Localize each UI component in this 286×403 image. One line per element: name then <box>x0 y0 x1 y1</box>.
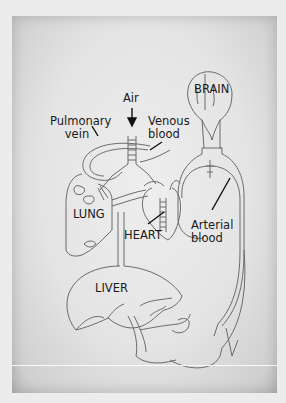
venous-blood-pointer <box>150 142 162 150</box>
label-venous-blood-line2: blood <box>148 128 190 141</box>
label-arterial-blood-line2: blood <box>191 232 233 245</box>
label-liver: LIVER <box>95 282 128 295</box>
label-pulmonary-vein: Pulmonary vein <box>50 115 104 141</box>
arterial-blood-pointer <box>212 178 230 210</box>
label-heart: HEART <box>124 229 162 242</box>
scan-artifact-line <box>12 365 277 366</box>
label-pulmonary-vein-line2: vein <box>50 128 104 141</box>
liver-outline <box>67 266 182 330</box>
label-venous-blood: Venous blood <box>148 115 190 141</box>
brain-outline <box>178 72 205 238</box>
label-arterial-blood: Arterial blood <box>191 219 233 245</box>
label-air: Air <box>123 92 139 105</box>
label-lung: LUNG <box>73 208 105 221</box>
label-brain: BRAIN <box>194 83 229 96</box>
circulation-drawing <box>0 0 286 403</box>
